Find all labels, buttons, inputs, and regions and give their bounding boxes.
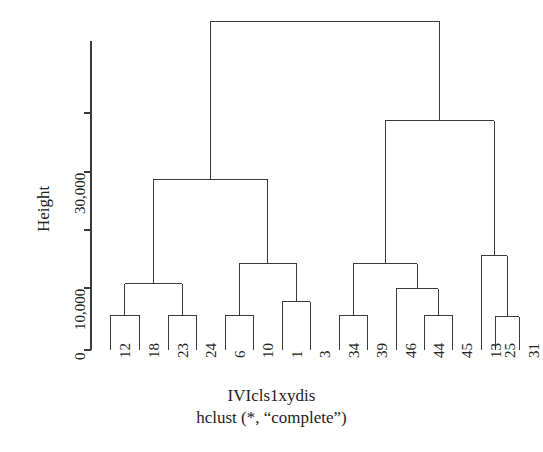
y-tick-label-10000: 10,000	[72, 289, 89, 330]
dendrogram-plot	[0, 0, 543, 452]
leaf-label-25: 25	[502, 343, 519, 358]
leaf-label-45: 45	[459, 343, 476, 358]
plot-subtitle: hclust (*, “complete”)	[0, 408, 543, 428]
leaf-label-24: 24	[203, 343, 220, 358]
y-tick-label-0: 0	[72, 353, 89, 361]
leaf-label-46: 46	[403, 343, 420, 358]
leaf-label-23: 23	[175, 343, 192, 358]
leaf-label-44: 44	[431, 343, 448, 358]
plot-main-title: IVIcls1xydis	[0, 386, 543, 406]
leaf-label-18: 18	[146, 343, 163, 358]
y-axis-title: Height	[34, 186, 54, 232]
leaf-label-1: 1	[289, 351, 306, 359]
leaf-label-39: 39	[374, 343, 391, 358]
leaf-label-3: 3	[317, 351, 334, 359]
leaf-label-31: 31	[526, 343, 543, 358]
leaf-label-10: 10	[260, 343, 277, 358]
leaf-label-34: 34	[346, 343, 363, 358]
leaf-label-6: 6	[232, 351, 249, 359]
y-tick-label-30000: 30,000	[72, 173, 89, 214]
leaf-label-12: 12	[117, 343, 134, 358]
